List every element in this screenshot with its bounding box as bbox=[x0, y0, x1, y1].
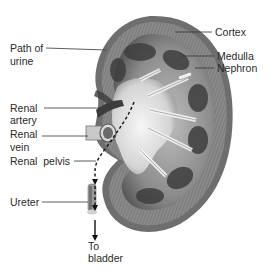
label-path-of-urine-2: urine bbox=[10, 55, 33, 67]
label-renal-artery-1: Renal bbox=[10, 102, 37, 114]
label-renal-pelvis: Renal pelvis bbox=[10, 155, 70, 167]
kidney-diagram: Cortex Medulla Nephron Path of urine Ren… bbox=[0, 0, 271, 272]
label-medulla: Medulla bbox=[217, 50, 254, 62]
label-renal-artery-2: artery bbox=[10, 114, 37, 126]
label-to-bladder-2: bladder bbox=[88, 252, 123, 264]
label-to-bladder-1: To bbox=[88, 240, 99, 252]
label-cortex: Cortex bbox=[215, 26, 246, 38]
kidney-illustration bbox=[0, 0, 271, 272]
label-renal-vein-1: Renal bbox=[10, 128, 37, 140]
label-path-of-urine-1: Path of bbox=[10, 42, 43, 54]
label-nephron: Nephron bbox=[217, 62, 257, 74]
renal-vein bbox=[86, 124, 116, 142]
label-renal-vein-2: vein bbox=[10, 141, 29, 153]
label-ureter: Ureter bbox=[10, 196, 39, 208]
